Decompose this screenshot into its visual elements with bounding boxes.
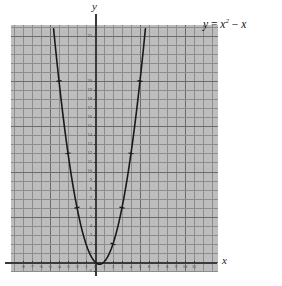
y-tick-label: 5 (80, 215, 92, 219)
y-tick-mark (94, 208, 97, 209)
x-tick-label: 11 (188, 265, 200, 269)
y-tick-mark (94, 199, 97, 200)
grid-line-horizontal (11, 226, 218, 227)
y-tick-label: 3 (80, 233, 92, 237)
grid-line-horizontal (11, 162, 218, 163)
y-tick-mark (94, 135, 97, 136)
grid-line-horizontal (11, 181, 218, 182)
y-tick-mark (94, 99, 97, 100)
y-tick-label: 1 (80, 251, 92, 255)
grid-line-horizontal (11, 135, 218, 136)
grid-line-horizontal (11, 172, 218, 173)
grid-line-horizontal (11, 90, 218, 91)
y-tick-label: 4 (80, 224, 92, 228)
y-tick-mark (94, 271, 97, 272)
y-tick-label: 8 (80, 187, 92, 191)
grid-line-horizontal (11, 253, 218, 254)
y-tick-label: 12 (80, 151, 92, 155)
y-tick-label: 10 (80, 169, 92, 173)
y-tick-mark (94, 190, 97, 191)
grid-lines (11, 25, 218, 272)
y-tick-label: 17 (80, 106, 92, 110)
y-tick-mark (94, 217, 97, 218)
plot-area (11, 25, 218, 272)
y-tick-mark (94, 36, 97, 37)
grid-line-horizontal (11, 271, 218, 272)
grid-line-horizontal (11, 144, 218, 145)
grid-line-horizontal (11, 117, 218, 118)
x-axis-label: x (222, 254, 227, 266)
grid-line-horizontal (11, 72, 218, 73)
y-tick-label: 14 (80, 133, 92, 137)
y-axis-label: y (92, 0, 97, 12)
y-tick-label: 9 (80, 178, 92, 182)
grid-line-horizontal (11, 36, 218, 37)
y-tick-mark (94, 153, 97, 154)
grid-line-horizontal (11, 208, 218, 209)
equation-caption: y = x2 − x (203, 17, 246, 30)
y-tick-label: 13 (80, 142, 92, 146)
y-tick-label: 6 (80, 206, 92, 210)
y-tick-label: 18 (80, 97, 92, 101)
equation-lhs: y (203, 18, 208, 30)
y-tick-mark (94, 162, 97, 163)
y-tick-label: 2 (80, 242, 92, 246)
grid-line-horizontal (11, 190, 218, 191)
equation-minus: − (232, 18, 239, 30)
y-tick-mark (94, 144, 97, 145)
y-tick-label: 16 (80, 115, 92, 119)
grid-line-horizontal (11, 45, 218, 46)
y-tick-label: 15 (80, 124, 92, 128)
y-tick-label: 7 (80, 196, 92, 200)
grid-line-horizontal (11, 153, 218, 154)
y-tick-mark (94, 117, 97, 118)
grid-line-horizontal (11, 63, 218, 64)
grid-line-horizontal (11, 99, 218, 100)
y-tick-label: 11 (80, 160, 92, 164)
grid-line-horizontal (11, 54, 218, 55)
y-tick-label: 20 (80, 79, 92, 83)
y-tick-mark (94, 226, 97, 227)
y-tick-mark (94, 244, 97, 245)
y-tick-mark (94, 253, 97, 254)
y-tick-mark (94, 90, 97, 91)
grid-line-horizontal (11, 235, 218, 236)
grid-line-horizontal (11, 27, 218, 28)
y-tick-mark (94, 181, 97, 182)
equation-linear-term: x (241, 18, 246, 30)
grid-line-horizontal (11, 244, 218, 245)
y-tick-mark (94, 108, 97, 109)
equation-equals: = (211, 18, 218, 30)
y-tick-mark (94, 235, 97, 236)
grid-line-horizontal (11, 81, 218, 82)
grid-line-horizontal (11, 217, 218, 218)
grid-line-horizontal (11, 126, 218, 127)
y-tick-mark (94, 81, 97, 82)
y-tick-mark (94, 126, 97, 127)
y-tick-label: -1 (80, 269, 92, 273)
y-tick-label: 19 (80, 88, 92, 92)
graph-figure: y x -8-7-6-5-4-3-2-101234567891011-11234… (0, 0, 282, 286)
grid-line-horizontal (11, 199, 218, 200)
y-tick-label: 25 (80, 34, 92, 38)
grid-line-horizontal (11, 108, 218, 109)
equation-exponent: 2 (225, 17, 229, 25)
y-tick-mark (94, 172, 97, 173)
